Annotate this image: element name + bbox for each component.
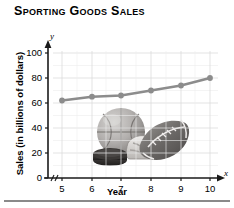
data-point (207, 75, 213, 81)
y-tick-label: 100 (16, 48, 42, 58)
data-point (59, 98, 65, 104)
x-tick-label: 8 (141, 184, 161, 194)
data-point (118, 93, 124, 99)
x-tick-label: 9 (171, 184, 191, 194)
data-point (89, 94, 95, 100)
y-tick-label: 80 (16, 73, 42, 83)
y-tick-label: 0 (16, 173, 42, 183)
x-tick-label: 7 (111, 184, 131, 194)
bottom-divider (4, 200, 230, 202)
y-tick-label: 60 (16, 98, 42, 108)
x-tick-label: 6 (82, 184, 102, 194)
y-tick-label: 40 (16, 123, 42, 133)
data-point (148, 88, 154, 94)
data-point (178, 83, 184, 89)
x-tick-label: 10 (200, 184, 220, 194)
y-tick-label: 20 (16, 148, 42, 158)
chart-figure: Sporting Goods Sales Sales (in billions … (0, 0, 234, 208)
x-tick-label: 5 (52, 184, 72, 194)
y-axis (45, 40, 52, 178)
